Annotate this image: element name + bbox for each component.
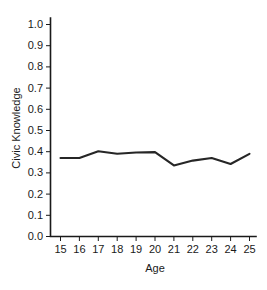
x-tick-label: 18 (111, 243, 123, 255)
y-tick-label: 0.3 (28, 166, 43, 178)
x-tick-label: 17 (92, 243, 104, 255)
x-tick-label: 24 (224, 243, 236, 255)
chart-container: 1.0 0.9 0.8 0.7 0.6 0.5 0.4 0.3 0.2 0.1 … (0, 0, 267, 290)
y-tick-label: 1.0 (28, 18, 43, 30)
y-tick-label: 0.0 (28, 230, 43, 242)
y-tick-label: 0.7 (28, 82, 43, 94)
y-tick-label: 0.5 (28, 124, 43, 136)
y-tick-label: 0.1 (28, 209, 43, 221)
x-tick-label: 25 (243, 243, 255, 255)
x-tick-label: 21 (168, 243, 180, 255)
civic-knowledge-line-chart: 1.0 0.9 0.8 0.7 0.6 0.5 0.4 0.3 0.2 0.1 … (0, 0, 267, 290)
x-tick-label: 23 (206, 243, 218, 255)
x-tick-label: 20 (149, 243, 161, 255)
y-tick-label: 0.8 (28, 60, 43, 72)
x-tick-label: 16 (73, 243, 85, 255)
x-tick-label: 15 (54, 243, 66, 255)
y-tick-label: 0.6 (28, 103, 43, 115)
x-tick-label: 22 (187, 243, 199, 255)
x-tick-labels: 15 16 17 18 19 20 21 22 23 24 25 (54, 243, 255, 255)
x-axis-title: Age (145, 262, 165, 274)
y-tick-label: 0.4 (28, 145, 43, 157)
y-axis-title: Civic Knowledge (10, 87, 22, 168)
x-tick-label: 19 (130, 243, 142, 255)
y-tick-label: 0.9 (28, 39, 43, 51)
y-tick-label: 0.2 (28, 188, 43, 200)
